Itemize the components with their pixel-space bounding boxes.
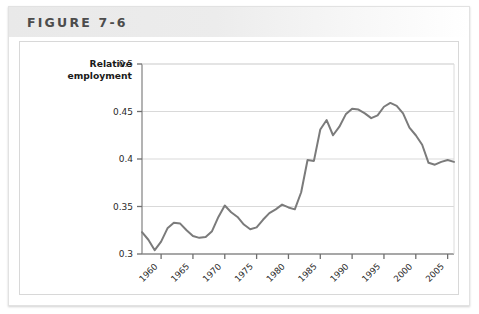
y-tick-label: 0.4 <box>119 154 134 164</box>
x-tick-label: 1970 <box>201 261 224 284</box>
x-tick-label: 2005 <box>424 261 447 284</box>
y-axis-ticks: 0.30.350.40.450.5 <box>113 59 142 259</box>
x-tick-label: 1990 <box>328 261 351 284</box>
line-chart: 0.30.350.40.450.5 1960196519701975198019… <box>20 42 458 294</box>
page-title: FIGURE 7-6 <box>27 15 128 30</box>
y-tick-label: 0.35 <box>113 202 133 212</box>
data-series-line <box>142 103 454 250</box>
x-tick-label: 1980 <box>264 261 287 284</box>
y-tick-label: 0.45 <box>113 107 133 117</box>
y-axis-title-line1: Relative <box>90 58 132 69</box>
x-tick-label: 1995 <box>360 261 383 284</box>
x-tick-label: 1975 <box>232 261 255 284</box>
y-tick-label: 0.3 <box>119 249 133 259</box>
gridlines <box>142 64 454 207</box>
x-axis-ticks: 1960196519701975198019851990199520002005 <box>137 254 448 284</box>
x-tick-label: 1985 <box>296 261 319 284</box>
x-tick-label: 1960 <box>137 261 160 284</box>
figure-card: FIGURE 7-6 0.30.350.40.450.5 19601965197… <box>8 6 470 306</box>
x-tick-label: 1965 <box>169 261 192 284</box>
chart-plot-frame: 0.30.350.40.450.5 1960196519701975198019… <box>19 41 459 295</box>
x-tick-label: 2000 <box>392 261 415 284</box>
y-axis-title-line2: employment <box>67 70 132 81</box>
